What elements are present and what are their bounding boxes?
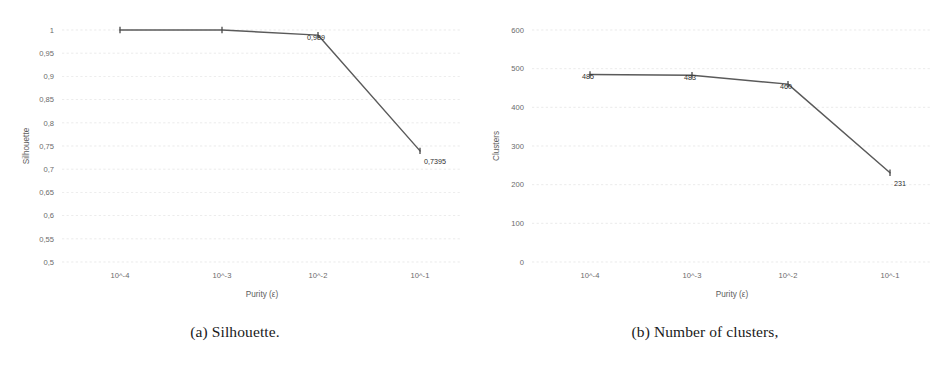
silhouette-line-chart: 10,950,90,850,80,750,70,650,60,550,5Silh… [0, 0, 470, 300]
chart-silhouette: 10,950,90,850,80,750,70,650,60,550,5Silh… [0, 0, 470, 300]
y-axis-tick-label: 0,75 [39, 142, 54, 151]
panel-silhouette: 10,950,90,850,80,750,70,650,60,550,5Silh… [0, 0, 470, 365]
y-axis-tick-label: 1 [50, 26, 54, 35]
y-axis-tick-label: 0,95 [39, 49, 54, 58]
y-axis-tick-label: 400 [511, 103, 524, 112]
x-axis-tick-label: 10^-1 [411, 271, 430, 280]
caption-b: (b) Number of clusters, [470, 323, 940, 341]
clusters-line-chart: 6005004003002001000Clusters10^-410^-310^… [470, 0, 940, 300]
x-axis-tick-label: 10^-3 [213, 271, 232, 280]
y-axis-tick-label: 0,5 [43, 258, 54, 267]
x-axis-tick-label: 10^-2 [779, 271, 798, 280]
x-axis-title: Purity (ε) [716, 290, 749, 299]
figure-container: 10,950,90,850,80,750,70,650,60,550,5Silh… [0, 0, 940, 365]
y-axis-tick-label: 0,55 [39, 235, 54, 244]
x-axis-tick-label: 10^-2 [309, 271, 328, 280]
y-axis-tick-label: 0,8 [43, 119, 54, 128]
y-axis-tick-label: 0,6 [43, 211, 54, 220]
y-axis-tick-label: 0,85 [39, 95, 54, 104]
x-axis-tick-label: 10^-4 [111, 271, 130, 280]
y-axis-tick-label: 0,7 [43, 165, 54, 174]
x-axis-tick-label: 10^-1 [881, 271, 900, 280]
y-axis-tick-label: 300 [511, 142, 524, 151]
y-axis-tick-label: 100 [511, 219, 524, 228]
data-series-line [120, 30, 420, 151]
panel-clusters: 6005004003002001000Clusters10^-410^-310^… [470, 0, 940, 365]
y-axis-tick-label: 600 [511, 26, 524, 35]
y-axis-tick-label: 0 [520, 258, 524, 267]
y-axis-tick-label: 0,65 [39, 188, 54, 197]
x-axis-tick-label: 10^-4 [581, 271, 600, 280]
y-axis-title: Clusters [492, 131, 501, 161]
y-axis-tick-label: 0,9 [43, 72, 54, 81]
x-axis-title: Purity (ε) [246, 290, 279, 299]
data-series-line [590, 74, 890, 172]
data-point-label: 460 [780, 82, 792, 91]
data-point-label: 231 [894, 179, 906, 188]
y-axis-tick-label: 200 [511, 180, 524, 189]
y-axis-tick-label: 500 [511, 64, 524, 73]
y-axis-title: Silhouette [22, 127, 31, 164]
chart-clusters: 6005004003002001000Clusters10^-410^-310^… [470, 0, 940, 300]
data-point-label: 0,989 [307, 33, 325, 42]
caption-a: (a) Silhouette. [0, 323, 470, 341]
data-point-label: 0,7395 [424, 157, 446, 166]
data-point-label: 485 [582, 72, 594, 81]
x-axis-tick-label: 10^-3 [683, 271, 702, 280]
data-point-label: 483 [684, 73, 696, 82]
